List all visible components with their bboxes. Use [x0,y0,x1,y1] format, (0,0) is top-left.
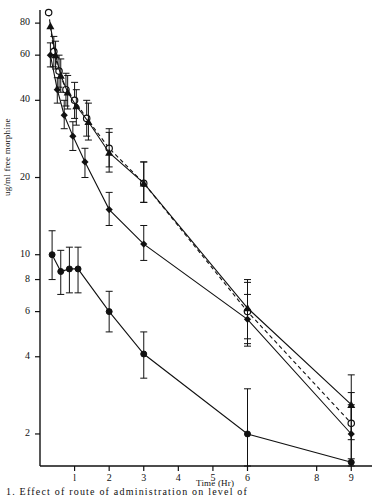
x-tick-label: 3 [137,472,151,483]
marker-filled-circle [348,459,354,465]
y-axis-label: ug/ml free morphine [2,118,12,196]
x-tick-label: 2 [102,472,116,483]
x-tick-label: 9 [344,472,358,483]
y-tick-label: 10 [8,248,30,259]
marker-filled-circle [66,266,72,272]
y-tick-label: 6 [8,305,30,316]
marker-filled-circle [49,252,55,258]
y-tick-label: 20 [8,171,30,182]
y-tick-label: 40 [8,93,30,104]
figure-caption: 1. Effect of route of administration on … [6,486,248,497]
marker-filled-circle [141,351,147,357]
x-tick-label: 5 [206,472,220,483]
y-tick-label: 80 [8,16,30,27]
y-tick-label: 60 [8,48,30,59]
series-line-filled-diamond-series [50,55,351,434]
marker-filled-circle [75,266,81,272]
series-line-filled-triangle-series [50,26,351,405]
marker-open-circle [45,9,51,15]
marker-filled-diamond [61,112,68,119]
marker-filled-circle [106,309,112,315]
chart-plot-area [0,0,378,497]
y-tick-label: 2 [8,427,30,438]
x-tick-label: 4 [171,472,185,483]
marker-filled-circle [58,269,64,275]
marker-filled-circle [245,431,251,437]
x-tick-label: 6 [241,472,255,483]
chart-figure: ug/ml free morphine Time (Hr) 1. Effect … [0,0,378,497]
x-tick-label: 8 [310,472,324,483]
marker-filled-diamond [69,133,76,140]
x-tick-label: l [68,472,82,483]
marker-filled-triangle [46,22,54,29]
y-tick-label: 4 [8,350,30,361]
marker-filled-diamond [81,158,88,165]
y-tick-label: 8 [8,273,30,284]
